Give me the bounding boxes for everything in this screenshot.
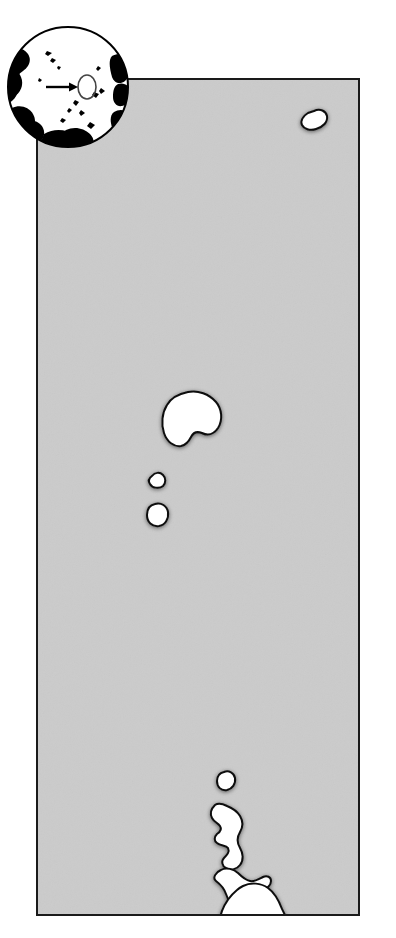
island-north: [301, 110, 327, 130]
islands-layer: [38, 80, 358, 914]
globe-locator-inset: [6, 22, 130, 152]
locator-map-figure: [0, 0, 396, 938]
island-central-upper-islet: [149, 473, 165, 488]
island-south-archipelago-north-limb: [211, 804, 243, 870]
island-south-islet: [217, 771, 235, 790]
island-central-lower-islet: [147, 503, 168, 526]
island-central-main: [162, 391, 221, 446]
main-map-frame: [36, 78, 360, 916]
